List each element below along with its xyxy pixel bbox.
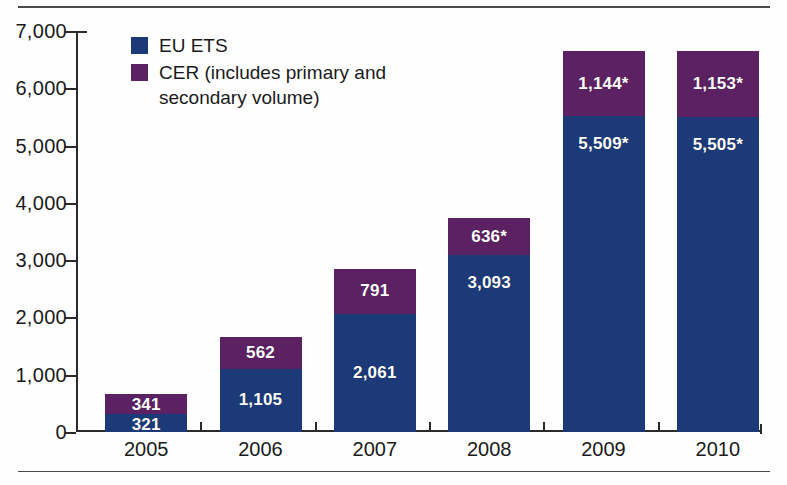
bar-segment-eu-ets-2010[interactable]: 5,505* [677,117,759,432]
bar-segment-cer-2006[interactable]: 562 [220,337,302,369]
bar-segment-cer-2007[interactable]: 791 [334,269,416,314]
bar-value-label-eu-ets-2007: 2,061 [353,363,397,383]
bar-value-label-eu-ets-2009: 5,509* [563,134,645,154]
bar-group-2010[interactable]: 1,153*5,505* [677,51,759,432]
legend-label-cer-line2: secondary volume) [159,87,320,108]
bar-value-label-cer-2006: 562 [246,343,275,363]
legend-label-eu-ets: EU ETS [159,33,228,58]
x-tick-2 [429,422,431,432]
bar-group-2009[interactable]: 1,144*5,509* [563,51,645,432]
bar-segment-eu-ets-2009[interactable]: 5,509* [563,116,645,432]
x-axis-label-2010: 2010 [677,438,759,461]
bar-value-label-cer-2009: 1,144* [578,74,628,94]
y-tick-label-4000: 4,000 [15,191,67,214]
x-tick-1 [315,422,317,432]
bar-group-2005[interactable]: 341321 [105,394,187,432]
bar-segment-cer-2009[interactable]: 1,144* [563,51,645,117]
y-tick-label-6000: 6,000 [15,77,67,100]
bar-value-label-eu-ets-2006: 1,105 [239,390,283,410]
bar-group-2008[interactable]: 636*3,093 [448,218,530,432]
bar-value-label-cer-2007: 791 [360,281,389,301]
x-axis-label-2006: 2006 [220,438,302,461]
y-tick-label-3000: 3,000 [15,249,67,272]
legend-item-cer: CER (includes primary and secondary volu… [131,60,459,110]
x-axis-label-2008: 2008 [448,438,530,461]
bar-value-label-eu-ets-2008: 3,093 [448,273,530,293]
x-tick-3 [543,422,545,432]
legend-swatch-eu-ets-icon [131,37,148,54]
bar-segment-cer-2010[interactable]: 1,153* [677,51,759,117]
top-divider-rule [18,6,770,8]
x-axis-right-cap [760,424,762,434]
x-axis-label-2007: 2007 [334,438,416,461]
y-tick-label-5000: 5,000 [15,134,67,157]
bar-segment-eu-ets-2008[interactable]: 3,093 [448,255,530,432]
bar-segment-eu-ets-2006[interactable]: 1,105 [220,369,302,432]
y-tick-label-0: 0 [56,421,67,444]
bar-value-label-cer-2005: 341 [105,395,187,415]
bar-segment-eu-ets-2007[interactable]: 2,061 [334,314,416,432]
bar-group-2007[interactable]: 7912,061 [334,269,416,432]
y-tick-label-2000: 2,000 [15,306,67,329]
bar-segment-cer-2008[interactable]: 636* [448,218,530,254]
legend-item-eu-ets: EU ETS [131,33,459,58]
bar-value-label-eu-ets-2005: 321 [105,415,187,435]
x-tick-0 [200,422,202,432]
bar-value-label-cer-2010: 1,153* [693,74,743,94]
x-axis-label-2005: 2005 [105,438,187,461]
y-axis-line [76,31,78,432]
bar-value-label-cer-2008: 636* [471,227,507,247]
legend-swatch-cer-icon [131,64,148,81]
bar-group-2006[interactable]: 5621,105 [220,337,302,432]
legend-label-cer: CER (includes primary and secondary volu… [159,60,459,110]
y-tick-label-1000: 1,000 [15,363,67,386]
chart-legend: EU ETS CER (includes primary and seconda… [131,33,459,112]
bar-segment-eu-ets-2005[interactable]: 321 [105,414,187,432]
x-tick-4 [658,422,660,432]
legend-label-cer-line1: CER (includes primary and [159,62,386,83]
bar-segment-cer-2005[interactable]: 341 [105,394,187,414]
bottom-divider-rule [18,471,770,472]
y-axis-top-cap [76,31,87,33]
y-tick-label-7000: 7,000 [15,20,67,43]
x-axis-label-2009: 2009 [563,438,645,461]
bar-value-label-eu-ets-2010: 5,505* [677,135,759,155]
